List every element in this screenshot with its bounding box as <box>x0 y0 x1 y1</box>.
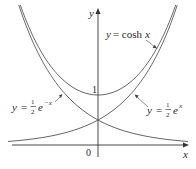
cosh-annotation: y= coshx <box>105 28 150 40</box>
cosh-pointer <box>146 40 155 47</box>
svg-text:1: 1 <box>31 98 35 106</box>
svg-text:2: 2 <box>31 108 35 116</box>
exp-pos-annotation: y = 1 2 e x <box>146 101 183 119</box>
chart-canvas: y x 0 1 y= coshx y = 1 2 e −x y = 1 2 e … <box>0 0 196 169</box>
y-axis-label: y <box>88 7 94 19</box>
origin-label: 0 <box>86 147 91 158</box>
y-axis-arrow-icon <box>96 8 101 14</box>
y-tick-1-label: 1 <box>92 84 97 95</box>
svg-text:=: = <box>21 101 27 113</box>
svg-text:e: e <box>173 104 178 116</box>
svg-text:y: y <box>146 104 152 116</box>
svg-text:x: x <box>178 102 183 110</box>
svg-text:1: 1 <box>166 101 170 109</box>
svg-text:2: 2 <box>166 111 170 119</box>
x-axis-arrow-icon <box>183 143 189 148</box>
svg-text:−x: −x <box>44 99 53 107</box>
svg-text:=: = <box>156 104 162 116</box>
svg-text:e: e <box>38 101 43 113</box>
svg-text:y: y <box>11 101 17 113</box>
exp-neg-annotation: y = 1 2 e −x <box>11 98 53 116</box>
x-axis-label: x <box>182 148 188 160</box>
